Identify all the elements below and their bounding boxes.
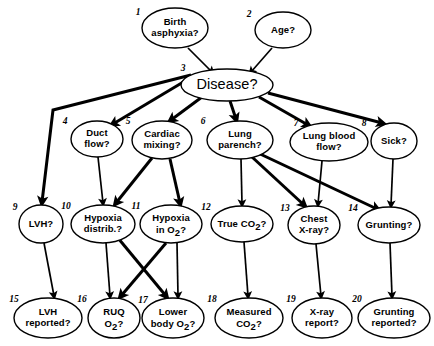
node-layer: Birthasphyxia?1Age?2Disease?3Ductflow?4C… [9, 7, 430, 338]
node-label: Lower [159, 306, 188, 317]
node-label: X-ray [310, 306, 335, 317]
node-lvh_reported[interactable]: LVHreported?15 [9, 294, 82, 338]
node-label: Grunting? [366, 219, 413, 230]
node-label: X-ray? [299, 224, 329, 235]
node-label: distrib.? [84, 223, 122, 234]
node-label: reported? [371, 317, 416, 328]
node-label: reported? [25, 317, 70, 328]
node-label: RUQ [103, 306, 124, 317]
edge-sick-to-grunting [391, 159, 393, 205]
node-birth_asphyxia[interactable]: Birthasphyxia?1 [136, 7, 208, 48]
node-grunting_reported[interactable]: Gruntingreported?20 [351, 294, 430, 338]
node-grunting[interactable]: Grunting?14 [348, 203, 420, 243]
node-label: Hypoxia [152, 212, 190, 223]
node-label: flow? [84, 138, 109, 149]
node-index-label: 11 [132, 201, 141, 211]
edge-age-to-disease [251, 48, 272, 72]
node-index-label: 18 [207, 294, 217, 304]
node-index-label: 10 [61, 201, 71, 211]
node-index-label: 15 [9, 294, 19, 304]
node-ruq_o2[interactable]: RUQO2?16 [77, 294, 140, 338]
node-label: Cardiac [144, 128, 180, 139]
node-disease[interactable]: Disease?3 [180, 63, 273, 101]
edge-hypoxia_distrib-to-ruq_o2 [106, 243, 110, 296]
node-label: parench? [218, 139, 262, 150]
node-index-label: 8 [362, 118, 367, 128]
node-lvh[interactable]: LVH?9 [13, 202, 63, 243]
node-index-label: 4 [62, 116, 68, 126]
edge-true_co2-to-measured_co2 [244, 242, 248, 296]
node-label: Hypoxia [84, 212, 122, 223]
edge-chest_xray-to-xray_report [316, 244, 321, 296]
edge-grunting-to-grunting_reported [390, 243, 392, 296]
edge-hypoxia_distrib-to-lower_body_o2 [118, 238, 166, 296]
node-index-label: 19 [286, 294, 296, 304]
edge-lvh-to-lvh_reported [44, 243, 54, 296]
node-label: flow? [316, 141, 341, 152]
node-index-label: 2 [246, 9, 252, 19]
edge-cardiac_mixing-to-hypoxia_in_o2 [170, 159, 180, 203]
node-index-label: 14 [348, 203, 358, 213]
node-label: Birth [164, 16, 187, 27]
edge-hypoxia_in_o2-to-lower_body_o2 [177, 243, 178, 296]
node-cardiac_mixing[interactable]: Cardiacmixing?5 [126, 116, 192, 159]
node-xray_report[interactable]: X-rayreport?19 [286, 294, 352, 338]
node-lower_body_o2[interactable]: Lowerbody O2?17 [138, 295, 204, 338]
node-index-label: 20 [351, 294, 362, 304]
node-sick[interactable]: Sick?8 [362, 118, 417, 159]
edge-disease-to-cardiac_mixing [171, 97, 202, 120]
node-label: Lung [228, 128, 252, 139]
node-index-label: 17 [138, 295, 149, 305]
edge-lung_parench-to-chest_xray [252, 157, 304, 205]
node-index-label: 13 [280, 203, 290, 213]
node-label: Chest [301, 213, 329, 224]
node-index-label: 12 [201, 202, 211, 212]
edge-cardiac_mixing-to-hypoxia_distrib [116, 158, 152, 203]
node-label: Disease? [196, 76, 257, 92]
node-measured_co2[interactable]: MeasuredCO2?18 [207, 294, 283, 338]
node-hypoxia_in_o2[interactable]: Hypoxiain O2?11 [132, 201, 202, 243]
node-true_co2[interactable]: True CO2?12 [201, 202, 273, 242]
node-label: asphyxia? [151, 27, 198, 38]
node-label: mixing? [143, 139, 180, 150]
node-label: LVH [39, 306, 58, 317]
node-index-label: 6 [201, 116, 206, 126]
node-label: LVH? [29, 218, 54, 229]
edge-duct_flow-to-hypoxia_distrib [98, 157, 103, 203]
node-hypoxia_distrib[interactable]: Hypoxiadistrib.?10 [61, 201, 135, 243]
edge-birth_asphyxia-to-disease [188, 48, 212, 72]
edge-lung_parench-to-true_co2 [241, 159, 242, 204]
node-label: Age? [271, 24, 295, 35]
node-label: Measured [226, 306, 271, 317]
edge-disease-to-lung_parench [230, 101, 236, 119]
diagram-canvas: Birthasphyxia?1Age?2Disease?3Ductflow?4C… [0, 0, 434, 346]
node-index-label: 3 [180, 63, 186, 73]
node-label: Grunting [374, 306, 415, 317]
node-label: Duct [86, 127, 108, 138]
node-shape [88, 298, 140, 338]
node-index-label: 16 [77, 294, 87, 304]
node-label: Sick? [381, 135, 407, 146]
node-lung_parench[interactable]: Lungparench?6 [201, 116, 273, 159]
node-index-label: 1 [136, 7, 141, 17]
node-index-label: 5 [126, 116, 131, 126]
node-chest_xray[interactable]: ChestX-ray?13 [280, 203, 340, 244]
node-lung_blood_flow[interactable]: Lung bloodflow?7 [290, 118, 368, 161]
node-age[interactable]: Age?2 [246, 9, 311, 48]
bayesian-network-graph: Birthasphyxia?1Age?2Disease?3Ductflow?4C… [0, 0, 434, 346]
node-label: report? [305, 317, 339, 328]
node-index-label: 9 [13, 202, 18, 212]
node-label: Lung blood [303, 130, 356, 141]
